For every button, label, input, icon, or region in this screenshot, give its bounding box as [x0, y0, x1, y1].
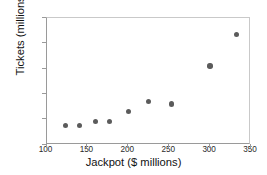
scatter-chart-figure: Tickets (millions) 102030405060 10015020… [0, 0, 267, 175]
x-tick-mark [209, 144, 210, 148]
x-tick-mark [46, 144, 47, 148]
data-point [107, 119, 112, 124]
x-tick-label: 350 [230, 145, 267, 154]
y-axis-title: Tickets (millions) [14, 0, 26, 94]
data-point [207, 63, 212, 68]
data-points-layer [47, 18, 250, 143]
data-point [77, 123, 82, 128]
x-axis-title: Jackpot ($ millions) [0, 156, 267, 168]
data-point [63, 123, 68, 128]
x-tick-mark [168, 144, 169, 148]
data-point [169, 101, 174, 106]
plot-area [46, 17, 251, 144]
data-point [234, 32, 239, 37]
data-point [146, 99, 151, 104]
x-tick-mark [250, 144, 251, 148]
x-tick-mark [86, 144, 87, 148]
x-tick-mark [127, 144, 128, 148]
data-point [126, 109, 131, 114]
data-point [93, 119, 98, 124]
